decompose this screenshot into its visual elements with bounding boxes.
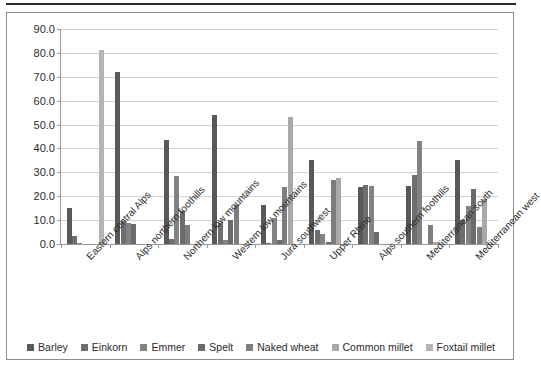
bar[interactable] xyxy=(77,243,82,244)
bar[interactable] xyxy=(477,227,482,244)
bar[interactable] xyxy=(369,186,374,244)
x-axis-tick-mark xyxy=(158,244,159,248)
x-axis-tick-mark xyxy=(110,244,111,248)
plot-area-wrapper: 0.010.020.030.040.050.060.070.080.090.0 xyxy=(7,13,515,253)
legend-item[interactable]: Naked wheat xyxy=(246,341,318,353)
legend-item[interactable]: Foxtail millet xyxy=(426,341,495,353)
legend-label: Spelt xyxy=(209,341,233,353)
legend-swatch-icon xyxy=(198,344,205,351)
legend-swatch-icon xyxy=(81,344,88,351)
y-axis-tick-label: 0.0 xyxy=(40,239,55,250)
legend-item[interactable]: Spelt xyxy=(198,341,233,353)
bar-group xyxy=(352,29,401,244)
legend-item[interactable]: Common millet xyxy=(332,341,413,353)
bar[interactable] xyxy=(288,117,293,244)
y-axis-tick-label: 60.0 xyxy=(34,95,55,106)
x-axis-tick-mark xyxy=(207,244,208,248)
bar[interactable] xyxy=(336,178,341,244)
bar[interactable] xyxy=(67,208,72,244)
y-axis-tick-label: 90.0 xyxy=(34,24,55,35)
bar-group xyxy=(61,29,110,244)
bar[interactable] xyxy=(169,239,174,244)
bar[interactable] xyxy=(131,224,136,244)
bar[interactable] xyxy=(126,223,131,245)
bar[interactable] xyxy=(412,175,417,244)
bar[interactable] xyxy=(266,243,271,244)
legend-item[interactable]: Barley xyxy=(27,341,68,353)
bar[interactable] xyxy=(417,141,422,244)
legend-label: Emmer xyxy=(151,341,185,353)
bar[interactable] xyxy=(374,232,379,244)
y-axis-tick-label: 10.0 xyxy=(34,215,55,226)
legend-swatch-icon xyxy=(140,344,147,351)
y-axis-tick-label: 50.0 xyxy=(34,119,55,130)
x-axis-tick-mark xyxy=(449,244,450,248)
legend-swatch-icon xyxy=(332,344,339,351)
y-axis-tick-label: 70.0 xyxy=(34,71,55,82)
y-axis-tick-label: 20.0 xyxy=(34,191,55,202)
x-axis-tick-mark xyxy=(401,244,402,248)
x-axis-tick-mark xyxy=(255,244,256,248)
legend-label: Common millet xyxy=(343,341,413,353)
bar[interactable] xyxy=(277,240,282,244)
legend-swatch-icon xyxy=(246,344,253,351)
chart-figure: 0.010.020.030.040.050.060.070.080.090.0 … xyxy=(6,12,514,360)
x-axis-category-labels: Eastern central AlpsAlps northern foothi… xyxy=(7,253,515,341)
bar[interactable] xyxy=(326,242,331,244)
legend-swatch-icon xyxy=(27,344,34,351)
legend-label: Barley xyxy=(38,341,68,353)
y-axis-tick-label: 40.0 xyxy=(34,143,55,154)
x-axis-tick-mark xyxy=(304,244,305,248)
legend-label: Einkorn xyxy=(92,341,128,353)
bar[interactable] xyxy=(428,225,433,244)
legend-item[interactable]: Emmer xyxy=(140,341,185,353)
y-axis-tick-label: 30.0 xyxy=(34,167,55,178)
x-axis-tick-mark xyxy=(61,244,62,248)
legend-label: Naked wheat xyxy=(257,341,318,353)
x-axis-tick-mark xyxy=(352,244,353,248)
chart-legend: BarleyEinkornEmmerSpeltNaked wheatCommon… xyxy=(7,337,515,357)
bar[interactable] xyxy=(315,230,320,244)
legend-item[interactable]: Einkorn xyxy=(81,341,128,353)
bar[interactable] xyxy=(72,236,77,244)
top-divider-rule xyxy=(6,3,516,5)
legend-swatch-icon xyxy=(426,344,433,351)
bar[interactable] xyxy=(185,225,190,244)
bar[interactable] xyxy=(320,234,325,244)
legend-label: Foxtail millet xyxy=(437,341,495,353)
x-axis-tick-mark xyxy=(498,244,499,248)
bar[interactable] xyxy=(223,240,228,244)
y-axis-tick-label: 80.0 xyxy=(34,47,55,58)
bar[interactable] xyxy=(99,50,104,244)
bar[interactable] xyxy=(228,220,233,244)
